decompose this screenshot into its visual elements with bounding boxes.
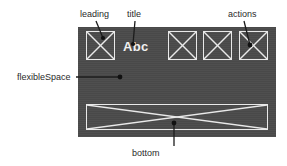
label-title: title: [127, 9, 141, 20]
label-flexible-space: flexibleSpace: [17, 72, 71, 83]
cross-icon: [87, 32, 114, 59]
label-leading: leading: [80, 9, 109, 20]
cross-icon: [87, 105, 267, 129]
cross-icon: [240, 32, 267, 59]
leading-placeholder-box[interactable]: [86, 31, 115, 60]
cross-icon: [169, 32, 196, 59]
action-placeholder-box-1[interactable]: [168, 31, 197, 60]
label-actions: actions: [228, 9, 257, 20]
diagram-canvas: Abc: [0, 0, 287, 166]
action-placeholder-box-3[interactable]: [239, 31, 268, 60]
label-bottom: bottom: [132, 148, 160, 159]
appbar-title: Abc: [123, 39, 148, 55]
bottom-placeholder-box[interactable]: [86, 104, 268, 130]
action-placeholder-box-2[interactable]: [203, 31, 232, 60]
cross-icon: [204, 32, 231, 59]
